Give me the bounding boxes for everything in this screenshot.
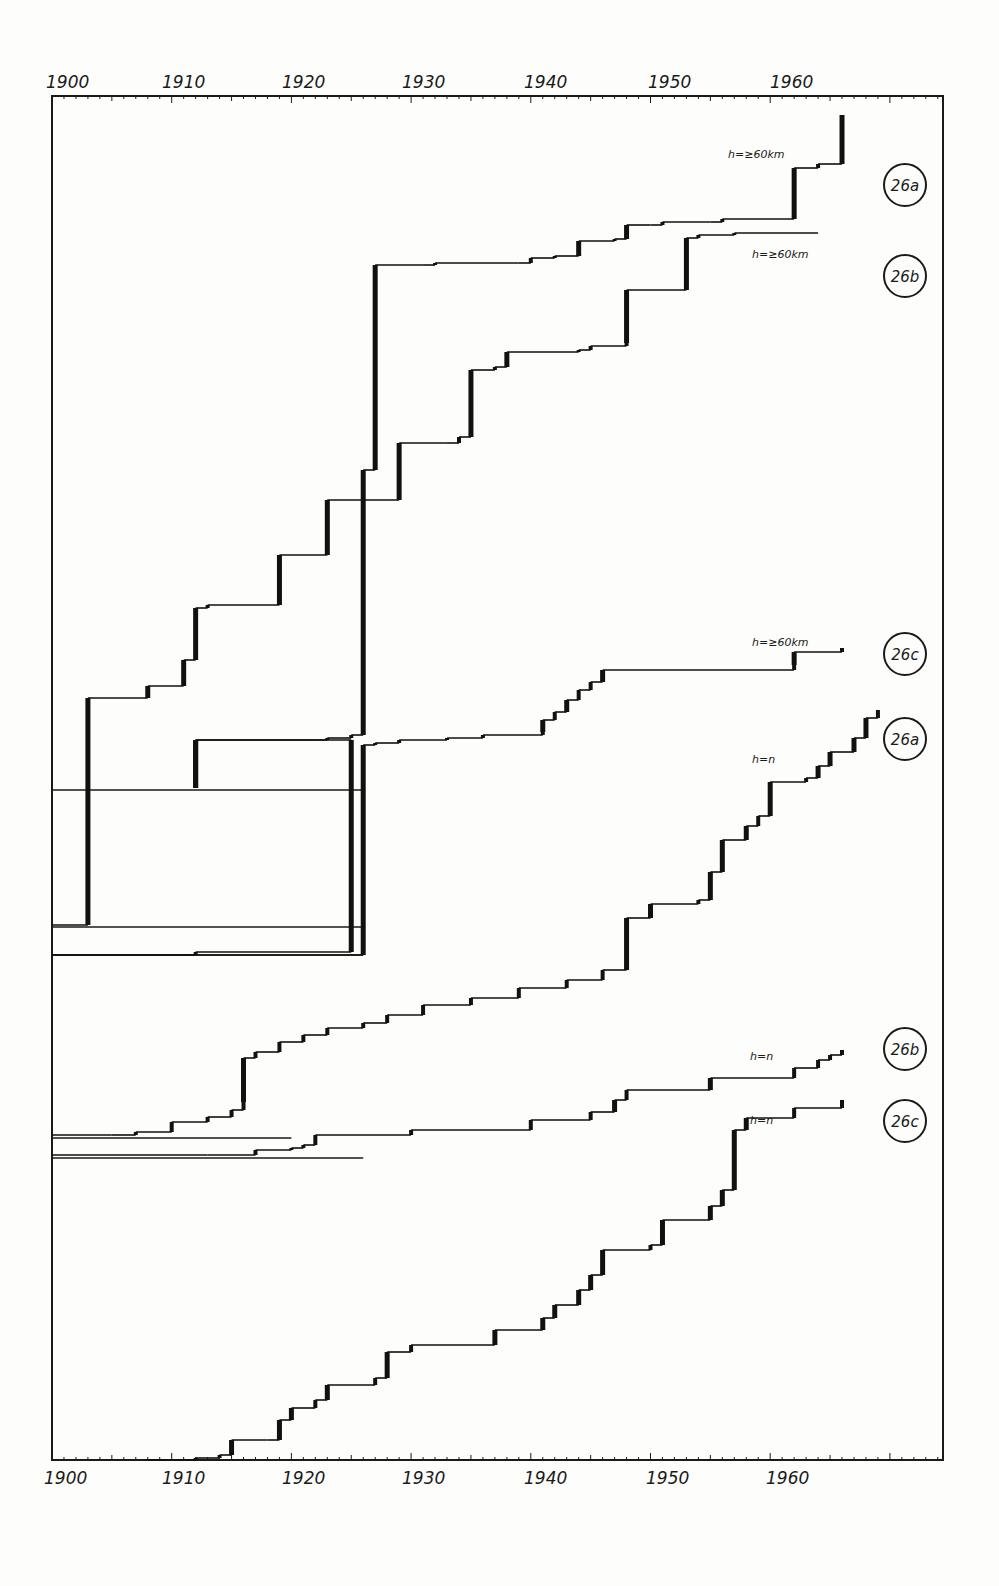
top-tick-label: 1950 [648, 72, 691, 92]
curve-label-26c-60km: h=≥60km [752, 636, 809, 649]
bottom-tick-label: 1900 [44, 1468, 87, 1488]
step-curves [52, 115, 878, 1460]
baseline-reference-lines [52, 790, 363, 1158]
bottom-tick-label: 1920 [282, 1468, 325, 1488]
bottom-axis-labels: 1900 1910 1920 1930 1940 1950 1960 [44, 1468, 809, 1488]
top-tick-label: 1900 [46, 72, 89, 92]
top-tick-label: 1960 [770, 72, 813, 92]
bottom-tick-label: 1910 [162, 1468, 205, 1488]
step-curve-26b-n [52, 1050, 842, 1155]
bottom-axis-ticks [52, 1453, 938, 1460]
curve-label-26b-60km: h=≥60km [752, 248, 809, 261]
curve-label-26a-60km: h=≥60km [728, 148, 785, 161]
curve-label-26b-n: h=n [750, 1050, 773, 1063]
badge-26b-n: 26b [884, 1028, 926, 1070]
badge-26a-n: 26a [884, 718, 926, 760]
badge-26c-n: 26c [884, 1100, 926, 1142]
top-tick-label: 1910 [162, 72, 205, 92]
top-axis-labels: 1900 1910 1920 1930 1940 1950 1960 [46, 72, 813, 92]
step-curve-26c-60km [52, 648, 842, 955]
svg-text:26b: 26b [891, 268, 920, 286]
bottom-tick-label: 1950 [646, 1468, 689, 1488]
top-tick-label: 1940 [524, 72, 567, 92]
badge-26b-top: 26b [884, 255, 926, 297]
step-curve-26c-n [148, 1100, 842, 1460]
bottom-tick-label: 1960 [766, 1468, 809, 1488]
svg-text:26c: 26c [891, 646, 919, 664]
curve-label-26a-n: h=n [752, 753, 775, 766]
svg-text:26a: 26a [891, 177, 919, 195]
step-curve-26b-60km [52, 233, 818, 955]
svg-text:26a: 26a [891, 731, 919, 749]
top-axis-ticks [52, 96, 938, 103]
step-curve-26a-n [52, 710, 878, 1135]
curve-label-26c-n: h=n [750, 1114, 773, 1127]
bottom-tick-label: 1930 [402, 1468, 445, 1488]
svg-text:26c: 26c [891, 1113, 919, 1131]
badge-26a-top: 26a [884, 164, 926, 206]
top-tick-label: 1930 [402, 72, 445, 92]
cumulative-step-chart: 1900 1910 1920 1930 1940 1950 1960 1900 … [0, 0, 999, 1586]
top-tick-label: 1920 [282, 72, 325, 92]
badge-26c-top: 26c [884, 633, 926, 675]
svg-text:26b: 26b [891, 1041, 920, 1059]
step-curve-26a-60km [52, 115, 842, 925]
bottom-tick-label: 1940 [524, 1468, 567, 1488]
